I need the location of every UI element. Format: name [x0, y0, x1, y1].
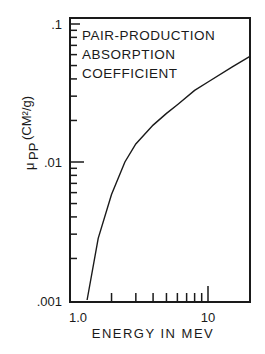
- y-axis-label: μ PP (CM²/g): [19, 96, 41, 170]
- chart-title-line-1: PAIR-PRODUCTION: [82, 28, 215, 43]
- x-tick-label: 1.0: [69, 310, 87, 325]
- y-tick-label: .001: [37, 294, 62, 309]
- svg-text:μ: μ: [22, 163, 37, 171]
- x-tick-label: 10: [201, 310, 215, 325]
- data-curve: [87, 57, 249, 300]
- chart-canvas: .1 .01 .001 1.0 10 ENERGY IN MEV μ PP (C…: [0, 0, 265, 354]
- chart-title-line-3: COEFFICIENT: [82, 66, 178, 81]
- svg-text:PP: PP: [26, 143, 41, 160]
- svg-text:(CM²/g): (CM²/g): [19, 96, 34, 140]
- x-axis-label: ENERGY IN MEV: [92, 326, 215, 341]
- x-axis-ticks: [112, 286, 208, 302]
- y-tick-label: .01: [44, 155, 62, 170]
- chart-title-line-2: ABSORPTION: [82, 47, 176, 62]
- y-tick-label: .1: [51, 17, 62, 32]
